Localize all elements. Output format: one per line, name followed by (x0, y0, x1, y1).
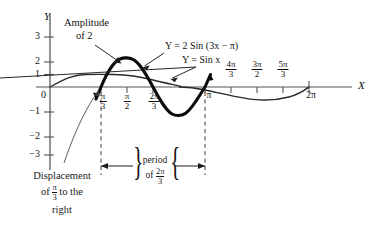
amplitude-label-line2: of 2 (76, 31, 93, 42)
fraction-pi-over-2: π 2 (124, 92, 131, 111)
origin-label: 0 (41, 90, 46, 100)
y-tick-minus-3: −3 (22, 149, 40, 159)
period-line-2: of 2π 3 (137, 167, 173, 185)
fraction-pi-over-3: π 3 (100, 92, 107, 111)
period-fraction: 2π 3 (156, 167, 165, 185)
amplitude-leader-line (95, 45, 120, 62)
y-axis-label: Y (44, 11, 50, 22)
period-arrow-right-head (198, 163, 205, 169)
y-tick-2: 2 (26, 56, 40, 66)
fraction-5pi-over-3: 5π 3 (277, 60, 288, 79)
thin-curve-equation-label: Y = Sin x (182, 55, 220, 65)
period-of-word: of (146, 170, 154, 180)
displacement-to-the-word: to the (59, 186, 83, 197)
displacement-line-2: of π 3 to the (6, 183, 118, 201)
displacement-line-1: Displacement (6, 168, 118, 183)
thick-curve-equation-label: Y = 2 Sin (3x − π) (165, 41, 238, 51)
displacement-fraction: π 3 (52, 183, 56, 201)
x-axis-label: X (358, 80, 365, 91)
displacement-line-3: right (6, 202, 118, 217)
trigonometric-graph-figure: Y X 0 3 2 1 −1 −2 −3 π 3 π 2 2π 3 π 4π 3 (0, 0, 378, 229)
x-tick-pi-over-3: π 3 (100, 92, 107, 111)
displacement-leader-curve (64, 92, 98, 163)
displacement-annotation: Displacement of π 3 to the right (6, 168, 118, 217)
x-tick-2pi-over-3: 2π 3 (148, 92, 159, 111)
y-tick-minus-2: −2 (22, 131, 40, 141)
x-tick-2pi: 2π (306, 91, 316, 101)
thick-curve-label-leader (145, 53, 165, 66)
displacement-of-word: of (41, 186, 50, 197)
fraction-4pi-over-3: 4π 3 (225, 60, 236, 79)
period-line-1: period (137, 155, 173, 167)
x-tick-pi: π (207, 91, 212, 101)
x-tick-pi-over-2: π 2 (124, 92, 131, 111)
x-tick-5pi-over-3: 5π 3 (277, 60, 288, 79)
fraction-2pi-over-3: 2π 3 (148, 92, 159, 111)
thin-curve-label-arrowhead (171, 77, 178, 82)
y-tick-1: 1 (26, 69, 40, 79)
thin-curve-label-leader (173, 67, 197, 78)
fraction-3pi-over-2: 3π 2 (251, 60, 262, 79)
x-tick-4pi-over-3: 4π 3 (225, 60, 236, 79)
x-tick-3pi-over-2: 3π 2 (251, 60, 262, 79)
amplitude-label-line1: Amplitude (64, 18, 109, 29)
period-annotation: period of 2π 3 (137, 155, 173, 185)
y-tick-3: 3 (26, 31, 40, 41)
y-tick-minus-1: −1 (22, 106, 40, 116)
